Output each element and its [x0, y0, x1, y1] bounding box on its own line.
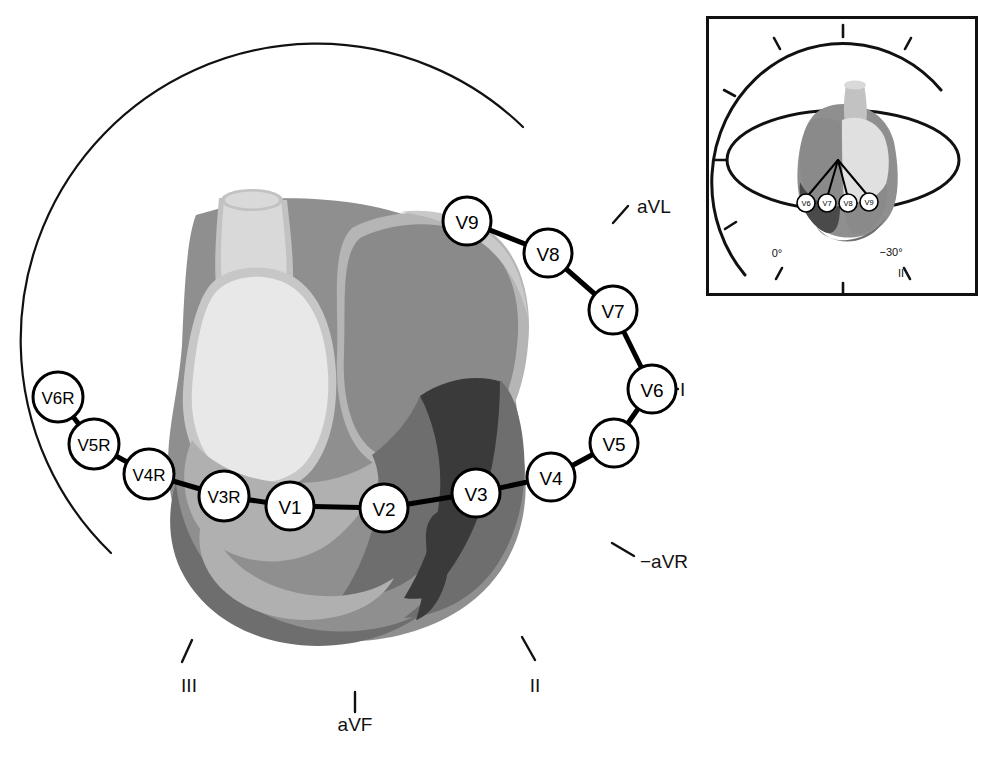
electrode-v5[interactable]: V5 — [590, 419, 638, 467]
electrode-label: V8 — [536, 244, 559, 265]
inset-aorta-opening — [844, 81, 866, 90]
inset-electrode-label: V8 — [843, 199, 852, 208]
electrode-v5r[interactable]: V5R — [69, 419, 119, 469]
axis-label-II: II — [530, 675, 541, 696]
electrode-v6r[interactable]: V6R — [33, 372, 83, 422]
electrode-v3r[interactable]: V3R — [199, 471, 249, 521]
inset-electrode-v6[interactable]: V6 — [797, 194, 815, 212]
tick-II — [522, 637, 535, 660]
electrode-v2[interactable]: V2 — [360, 484, 408, 532]
electrode-v8[interactable]: V8 — [524, 229, 572, 277]
ecg-electrode-diagram: V6RV5RV4RV3RV1V2V3V4V5V6V7V8V9 aVL I −aV… — [0, 0, 984, 767]
electrode-label: V7 — [601, 301, 624, 322]
electrode-label: V3 — [464, 484, 487, 505]
axis-label-III: III — [181, 675, 197, 696]
heart-illustration — [168, 189, 529, 646]
axis-label-I: I — [680, 379, 685, 400]
inset-electrode-label: V6 — [801, 199, 810, 208]
orientation-inset: V6V7V8V9 0° −30° II — [708, 18, 977, 296]
pulmonary-artery-body — [192, 277, 329, 483]
tick-aVL — [613, 206, 628, 223]
axis-label-aVL: aVL — [637, 196, 671, 217]
figure-canvas: V6RV5RV4RV3RV1V2V3V4V5V6V7V8V9 aVL I −aV… — [0, 0, 984, 767]
electrode-label: V5R — [77, 436, 110, 455]
electrode-v7[interactable]: V7 — [589, 286, 637, 334]
axis-label-aVF: aVF — [338, 714, 373, 735]
electrode-label: V4 — [539, 468, 563, 489]
electrode-v6[interactable]: V6 — [628, 365, 676, 413]
electrode-label: V9 — [455, 212, 478, 233]
electrode-v4r[interactable]: V4R — [124, 449, 174, 499]
electrode-label: V4R — [132, 466, 165, 485]
electrode-v3[interactable]: V3 — [452, 469, 500, 517]
inset-electrode-label: V9 — [864, 198, 873, 207]
electrode-label: V5 — [602, 434, 625, 455]
inset-electrode-v8[interactable]: V8 — [839, 194, 857, 212]
inset-electrode-v9[interactable]: V9 — [860, 193, 878, 211]
inset-electrode-label: V7 — [822, 199, 831, 208]
aorta-opening — [225, 192, 279, 209]
inset-label-minus-thirty-degrees: −30° — [879, 246, 902, 258]
inset-label-lead-II: II — [898, 267, 904, 279]
electrode-label: V6R — [41, 389, 74, 408]
axis-label-minus-aVR: −aVR — [640, 551, 688, 572]
tick-III — [182, 640, 192, 662]
electrode-label: V6 — [640, 380, 663, 401]
electrode-label: V1 — [278, 497, 301, 518]
electrode-label: V3R — [207, 488, 240, 507]
electrode-v9[interactable]: V9 — [443, 197, 491, 245]
inset-label-zero-degrees: 0° — [772, 247, 783, 259]
electrode-v4[interactable]: V4 — [527, 453, 575, 501]
tick-minus-aVR — [612, 543, 634, 556]
inset-electrode-v7[interactable]: V7 — [818, 194, 836, 212]
electrode-label: V2 — [372, 499, 395, 520]
electrode-v1[interactable]: V1 — [266, 482, 314, 530]
